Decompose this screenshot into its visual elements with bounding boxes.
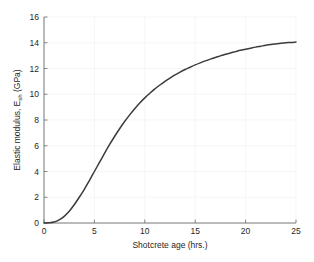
y-tick-label: 2 — [34, 192, 39, 202]
y-tick-label: 0 — [34, 218, 39, 228]
x-tick-label: 5 — [92, 226, 97, 236]
x-axis-title-text: Shotcrete age (hrs.) — [132, 240, 207, 250]
y-tick-labels: 0246810121416 — [30, 12, 40, 228]
y-tick-label: 14 — [30, 38, 40, 48]
x-tick-labels: 0510152025 — [42, 226, 301, 236]
y-tick-label: 8 — [34, 115, 39, 125]
x-axis-title: Shotcrete age (hrs.) — [132, 240, 207, 250]
y-tick-label: 12 — [30, 64, 40, 74]
x-tick-label: 20 — [241, 226, 251, 236]
x-tick-label: 25 — [291, 226, 301, 236]
x-tick-label: 15 — [190, 226, 200, 236]
y-axis-title-text: Elastic modulus, Esh (GPa) — [12, 69, 23, 170]
chart-plot: 0510152025 0246810121416 Shotcrete age (… — [0, 0, 314, 262]
x-tick-label: 10 — [140, 226, 150, 236]
data-series — [44, 42, 296, 223]
data-curve — [44, 42, 296, 223]
x-tick-label: 0 — [42, 226, 47, 236]
y-axis-title-main: Elastic modulus, E — [12, 100, 22, 170]
y-axis-title-group: Elastic modulus, Esh (GPa) — [12, 69, 23, 170]
y-tick-label: 10 — [30, 89, 40, 99]
y-tick-label: 16 — [30, 12, 40, 22]
y-axis-title: Elastic modulus, Esh (GPa) — [12, 69, 23, 170]
y-tick-label: 4 — [34, 167, 39, 177]
y-tick-label: 6 — [34, 141, 39, 151]
figure-canvas: 0510152025 0246810121416 Shotcrete age (… — [0, 0, 314, 262]
y-axis-title-units: (GPa) — [12, 69, 22, 94]
